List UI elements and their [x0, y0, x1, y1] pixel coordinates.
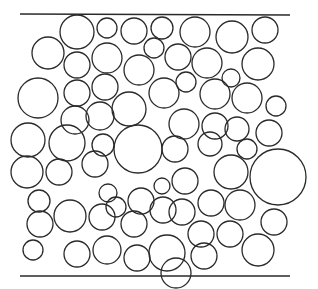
circle: [124, 245, 150, 271]
circle: [89, 204, 115, 230]
circle: [23, 240, 43, 260]
circle: [250, 149, 306, 205]
circle: [61, 106, 89, 134]
circle-group: [11, 15, 306, 288]
circle: [225, 190, 255, 220]
circle: [198, 132, 222, 156]
circle: [46, 159, 72, 185]
circle: [237, 139, 257, 159]
circle: [200, 79, 230, 109]
circle: [256, 120, 282, 146]
circle: [192, 48, 222, 78]
circle: [11, 123, 45, 157]
circle: [225, 117, 249, 141]
circle: [124, 55, 154, 85]
circle: [93, 236, 121, 264]
circle: [92, 74, 118, 100]
circle: [92, 134, 114, 156]
circle: [92, 43, 122, 73]
circle: [11, 156, 43, 188]
circle: [121, 18, 147, 44]
circle: [32, 37, 64, 69]
circle: [242, 48, 274, 80]
diagram-svg: [0, 0, 318, 289]
circle: [86, 102, 114, 130]
circle: [169, 199, 195, 225]
circle: [172, 168, 198, 194]
circle: [27, 211, 53, 237]
circle: [114, 125, 162, 173]
circle: [106, 197, 126, 217]
circle: [99, 184, 117, 202]
top-boundary-line: [20, 14, 290, 15]
circle: [64, 241, 90, 267]
circle: [144, 38, 164, 58]
circle: [165, 44, 191, 70]
circle: [151, 17, 173, 39]
circle: [82, 151, 108, 177]
circle: [28, 190, 50, 212]
circle: [217, 221, 243, 247]
circle: [216, 21, 248, 53]
circle: [97, 18, 117, 38]
circle: [261, 209, 287, 235]
circle: [54, 200, 86, 232]
circle: [180, 17, 210, 47]
circle: [162, 136, 188, 162]
circle: [161, 258, 191, 288]
circle: [214, 155, 248, 189]
circle: [112, 92, 146, 126]
circle: [222, 69, 240, 87]
circle: [149, 235, 185, 271]
circle: [60, 15, 94, 49]
circle: [149, 78, 179, 108]
circle: [49, 125, 85, 161]
circle: [198, 190, 224, 216]
circle: [121, 211, 147, 237]
circle: [266, 96, 286, 116]
circle: [154, 178, 170, 194]
circle: [169, 109, 199, 139]
circle: [64, 80, 90, 106]
circle: [202, 113, 228, 139]
circle: [18, 78, 58, 118]
circle: [242, 234, 274, 266]
circle: [232, 83, 262, 113]
circle: [64, 52, 90, 78]
circle: [252, 17, 278, 43]
circle: [150, 197, 176, 223]
circle-packing-diagram: [0, 0, 318, 289]
